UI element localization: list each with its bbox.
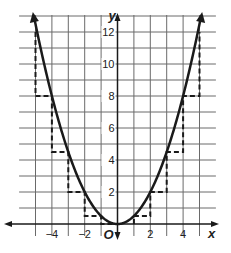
y-tick-label: 2 (108, 186, 114, 198)
y-tick-label: 10 (102, 58, 114, 70)
x-tick-label: 4 (180, 228, 186, 240)
y-tick-label: 12 (102, 26, 114, 38)
curve-left-arrow-icon (30, 12, 39, 23)
x-tick-label: 2 (147, 228, 153, 240)
y-tick-label: 6 (108, 122, 114, 134)
y-tick-label: 8 (108, 90, 114, 102)
parabola-graph: 24681012−4−224yxO (0, 0, 231, 253)
y-axis-label: y (108, 8, 117, 23)
curve-right-arrow-icon (196, 12, 205, 23)
x-tick-label: −2 (78, 228, 91, 240)
x-axis-label: x (207, 226, 216, 241)
x-axis-left-arrow-icon (4, 221, 12, 227)
origin-label: O (104, 227, 114, 242)
y-axis-down-arrow-icon (115, 232, 121, 240)
x-tick-label: −4 (46, 228, 59, 240)
y-tick-label: 4 (108, 154, 114, 166)
tick-labels: 24681012−4−224yxO (46, 8, 216, 242)
